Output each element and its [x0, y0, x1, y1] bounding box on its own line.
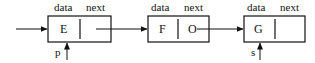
- node-e: data next E: [48, 1, 111, 42]
- node-g-next-label: next: [280, 1, 299, 13]
- node-f-next-value: O: [188, 22, 197, 36]
- pointer-s: s: [251, 43, 260, 60]
- node-f-next-label: next: [184, 1, 203, 13]
- node-f-data-value: F: [159, 22, 166, 36]
- pointer-p: p: [55, 43, 67, 60]
- pointer-s-label: s: [251, 46, 255, 58]
- node-e-next-label: next: [86, 1, 105, 13]
- node-e-data-label: data: [54, 1, 72, 13]
- node-g-data-value: G: [254, 22, 263, 36]
- node-g: data next G: [244, 1, 305, 42]
- node-g-data-label: data: [247, 1, 265, 13]
- node-f: data next F O: [148, 1, 209, 42]
- node-e-data-value: E: [60, 22, 67, 36]
- pointer-p-label: p: [55, 46, 61, 58]
- linked-list-diagram: data next E data next F O data next G p …: [0, 0, 315, 63]
- node-f-data-label: data: [151, 1, 169, 13]
